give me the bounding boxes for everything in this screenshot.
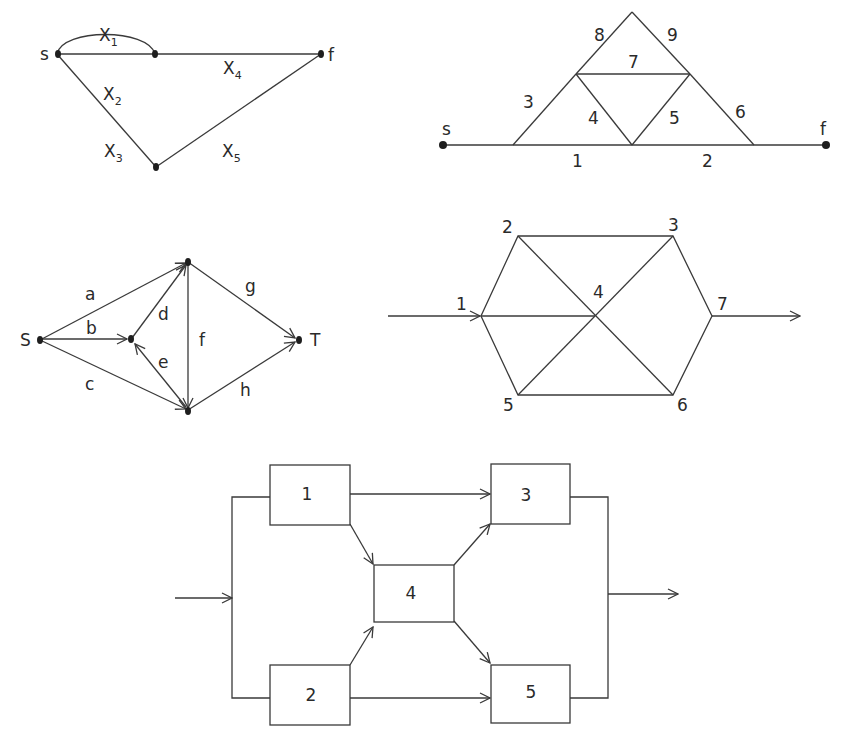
label-x3: X3 — [104, 141, 123, 165]
arrow-4-to-3 — [454, 524, 490, 565]
block-3: 3 — [491, 464, 570, 524]
label-edge-d: d — [158, 304, 169, 324]
edge-5 — [632, 74, 690, 145]
node-middle — [152, 50, 158, 58]
label-edge-g: g — [245, 276, 256, 296]
edge-g — [188, 262, 295, 338]
diagram-3-directed-network: S T a b c d e f g h — [20, 258, 321, 415]
label-node-6: 6 — [677, 395, 688, 415]
label-edge-8: 8 — [594, 25, 605, 45]
block-5: 5 — [491, 665, 570, 723]
block-2-label: 2 — [306, 685, 317, 705]
label-f: f — [820, 119, 827, 139]
label-x5: X5 — [222, 141, 241, 165]
block-2: 2 — [270, 665, 350, 725]
label-edge-h: h — [240, 380, 251, 400]
label-edge-a: a — [85, 284, 95, 304]
label-edge-c: c — [85, 374, 94, 394]
edge-4 — [576, 74, 632, 145]
node-f — [318, 50, 324, 58]
node-S — [37, 336, 43, 344]
label-edge-5: 5 — [669, 108, 680, 128]
label-T: T — [309, 330, 321, 350]
label-s: s — [442, 119, 451, 139]
label-edge-9: 9 — [667, 25, 678, 45]
diagram-4-hexagon-network: 1 2 3 4 5 6 7 — [388, 215, 800, 415]
label-edge-b: b — [86, 318, 97, 338]
label-edge-7: 7 — [628, 52, 639, 72]
block-1-label: 1 — [302, 484, 313, 504]
label-edge-1: 1 — [572, 151, 583, 171]
node-s — [55, 50, 61, 58]
label-node-2: 2 — [502, 217, 513, 237]
label-f: f — [328, 45, 335, 65]
label-S: S — [20, 330, 31, 350]
diagram-1-bridge-network: s f X1 X2 X3 X4 X5 — [40, 25, 335, 171]
edge-c — [40, 340, 186, 409]
label-edge-e: e — [158, 352, 168, 372]
block-4-label: 4 — [406, 583, 417, 603]
label-edge-4: 4 — [588, 108, 599, 128]
label-node-4: 4 — [593, 282, 604, 302]
block-5-label: 5 — [526, 682, 537, 702]
output-bus — [570, 497, 608, 698]
diagram-2-triangle-network: s f 1 2 3 4 5 6 7 8 9 — [439, 12, 830, 171]
arrow-1-to-4 — [350, 524, 373, 564]
arrow-2-to-4 — [350, 627, 373, 665]
label-node-1: 1 — [456, 294, 467, 314]
label-node-7: 7 — [717, 294, 728, 314]
node-f — [822, 141, 830, 149]
block-1: 1 — [270, 465, 350, 525]
label-node-3: 3 — [668, 215, 679, 235]
input-bus — [232, 497, 270, 698]
edge-d — [132, 265, 186, 338]
arrow-4-to-5 — [454, 621, 490, 663]
label-x1: X1 — [99, 25, 118, 49]
node-top — [185, 258, 191, 266]
edge-a — [40, 263, 186, 340]
node-bottom — [185, 407, 191, 415]
node-s — [439, 141, 447, 149]
block-4: 4 — [374, 565, 454, 622]
label-s: s — [40, 44, 49, 64]
diagram-5-block-diagram: 1 3 4 2 5 — [175, 464, 678, 725]
node-bottom — [153, 163, 159, 171]
label-x2: X2 — [103, 84, 122, 108]
label-edge-6: 6 — [735, 102, 746, 122]
edge-9 — [632, 12, 690, 74]
node-middle — [128, 335, 134, 343]
label-edge-f: f — [199, 330, 206, 350]
diagrams-canvas: s f X1 X2 X3 X4 X5 s f 1 2 3 4 5 6 7 8 9 — [0, 0, 849, 747]
label-x4: X4 — [223, 58, 242, 82]
node-T — [296, 336, 302, 344]
block-3-label: 3 — [521, 485, 532, 505]
label-edge-2: 2 — [702, 151, 713, 171]
label-edge-3: 3 — [523, 92, 534, 112]
label-node-5: 5 — [503, 395, 514, 415]
